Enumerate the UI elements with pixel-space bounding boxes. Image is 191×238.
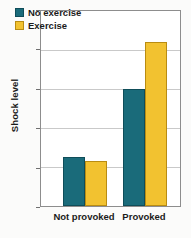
legend-entry-no-exercise: No exercise xyxy=(15,7,81,18)
legend: No exercise Exercise xyxy=(13,5,84,35)
bar-no-exercise-provoked xyxy=(123,89,145,206)
legend-label-no-exercise: No exercise xyxy=(28,8,81,18)
legend-label-exercise: Exercise xyxy=(28,21,67,31)
bar-chart-figure: Shock level 1 2 3 4 5 6 Not provoked Pro… xyxy=(0,0,191,238)
y-axis-title: Shock level xyxy=(9,71,20,141)
legend-entry-exercise: Exercise xyxy=(15,20,81,31)
x-tick-label-provoked: Provoked xyxy=(122,211,165,222)
bar-exercise-not-provoked xyxy=(85,161,107,206)
legend-swatch-exercise-icon xyxy=(15,21,24,30)
plot-area xyxy=(40,10,181,207)
x-tick-label-not-provoked: Not provoked xyxy=(53,211,114,222)
bar-no-exercise-not-provoked xyxy=(63,157,85,206)
legend-swatch-no-exercise-icon xyxy=(15,8,24,17)
y-tick-mark-1 xyxy=(36,207,40,208)
bar-exercise-provoked xyxy=(145,42,167,206)
